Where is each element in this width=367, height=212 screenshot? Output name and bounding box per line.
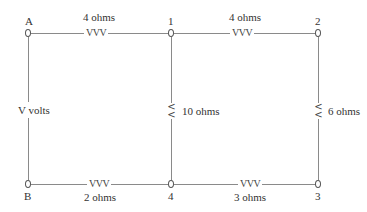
node-label-4: 4 — [168, 190, 174, 202]
resistor-symbol-b-4: VVV — [87, 179, 111, 189]
resistor-label-2-3: 6 ohms — [328, 105, 360, 117]
voltage-source-label: V volts — [18, 102, 50, 118]
node-label-1: 1 — [168, 15, 174, 27]
node-1 — [168, 29, 174, 37]
resistor-symbol-1-2: VVV — [230, 28, 254, 38]
resistor-label-b-4: 2 ohms — [84, 191, 116, 203]
resistor-symbol-a-1: VVV — [84, 28, 108, 38]
resistor-symbol-1-4: << — [167, 103, 176, 119]
resistor-label-1-2: 4 ohms — [229, 11, 261, 23]
node-label-a: A — [25, 15, 33, 27]
node-4 — [168, 180, 174, 188]
resistor-label-4-3: 3 ohms — [234, 191, 266, 203]
node-3 — [315, 180, 321, 188]
node-label-2: 2 — [315, 15, 321, 27]
node-b — [25, 180, 31, 188]
resistor-symbol-2-3: << — [314, 103, 323, 119]
node-2 — [315, 29, 321, 37]
resistor-label-a-1: 4 ohms — [83, 11, 115, 23]
node-label-3: 3 — [315, 190, 321, 202]
resistor-symbol-4-3: VVV — [238, 179, 262, 189]
resistor-label-1-4: 10 ohms — [182, 105, 220, 117]
node-a — [25, 29, 31, 37]
node-label-b: B — [24, 190, 31, 202]
